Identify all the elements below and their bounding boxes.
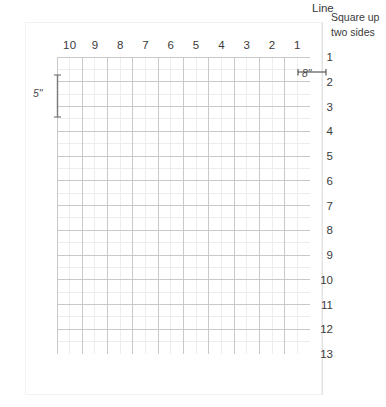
square-up-note-line-1: Square up [331, 10, 386, 25]
row-label-5: 5 [311, 150, 333, 162]
diagram-canvas: 10987654321 Line 12345678910111213 5" 8"… [0, 0, 386, 407]
column-header-strip: 10987654321 [57, 37, 310, 55]
row-label-4: 4 [311, 125, 333, 137]
column-header-10: 10 [57, 37, 83, 53]
grid-lines [57, 57, 310, 354]
row-label-11: 11 [311, 299, 333, 311]
vertical-dimension-bracket [53, 74, 62, 118]
row-label-3: 3 [311, 101, 333, 113]
column-header-3: 3 [234, 37, 260, 53]
column-header-8: 8 [107, 37, 133, 53]
row-label-2: 2 [311, 76, 333, 88]
column-header-9: 9 [82, 37, 108, 53]
column-header-2: 2 [259, 37, 285, 53]
row-label-6: 6 [311, 175, 333, 187]
row-label-8: 8 [311, 224, 333, 236]
row-label-13: 13 [311, 348, 333, 360]
square-up-note-line-2: two sides [331, 25, 386, 40]
column-header-1: 1 [284, 37, 310, 53]
row-label-12: 12 [311, 323, 333, 335]
row-label-10: 10 [311, 274, 333, 286]
column-header-6: 6 [158, 37, 184, 53]
square-up-note: Square up two sides [331, 10, 386, 40]
column-header-4: 4 [208, 37, 234, 53]
column-header-5: 5 [183, 37, 209, 53]
vertical-dimension-label: 5" [33, 87, 43, 99]
horizontal-dimension-label: 8" [302, 67, 312, 79]
row-label-7: 7 [311, 200, 333, 212]
column-header-7: 7 [133, 37, 159, 53]
drafting-grid [57, 57, 310, 354]
row-label-9: 9 [311, 249, 333, 261]
